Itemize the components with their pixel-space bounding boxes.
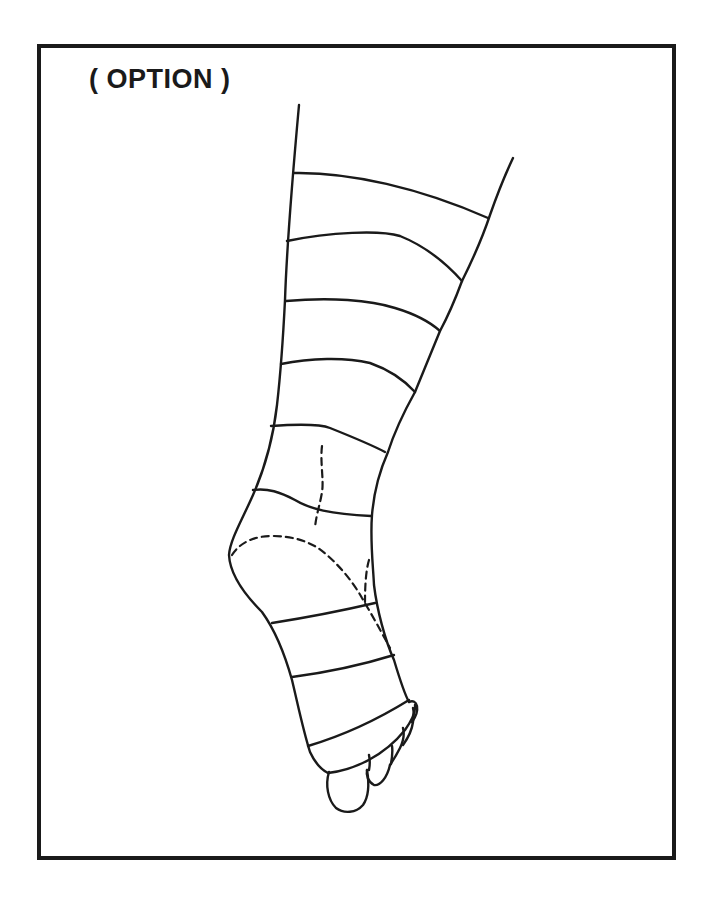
bandage-turn-2 xyxy=(287,233,462,281)
leg-outline xyxy=(229,105,513,773)
bandage-turn-1 xyxy=(294,173,488,218)
dashed-instep-line xyxy=(365,560,369,602)
toe-crease-1 xyxy=(369,755,370,770)
bandage-turn-8 xyxy=(292,655,394,677)
bandage-turn-lines xyxy=(253,173,488,773)
bandage-turn-7 xyxy=(272,603,375,623)
leg-outline-right xyxy=(371,158,513,702)
dashed-malleolus-line xyxy=(315,446,323,528)
bandage-turn-9 xyxy=(308,700,409,746)
toe-crease-2 xyxy=(391,746,392,764)
toes xyxy=(327,701,417,812)
bandage-turn-3 xyxy=(286,299,440,331)
bandage-turn-5 xyxy=(271,425,385,452)
dashed-heel-curve xyxy=(232,536,390,648)
bandage-turn-6 xyxy=(253,489,371,516)
hidden-contour-dashed-lines xyxy=(232,446,390,648)
big-toe xyxy=(327,770,368,812)
bandaged-leg-illustration xyxy=(0,0,716,899)
bandage-turn-4 xyxy=(281,359,415,392)
